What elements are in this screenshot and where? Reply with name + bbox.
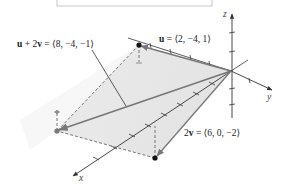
y-axis-negative	[231, 60, 248, 71]
vector-diagram: z y x u = ⟨2, −4, 1⟩ u + 2v = ⟨8, −4, −1…	[0, 0, 288, 185]
y-axis-label: y	[267, 93, 271, 103]
vector-u-value: = ⟨2, −4, 1⟩	[164, 34, 211, 44]
y-axis-tick	[249, 78, 250, 83]
point-2v	[152, 155, 157, 160]
point-u-plus-2v	[54, 128, 59, 133]
vector-sum-value: = ⟨8, −4, −1⟩	[42, 39, 94, 49]
x-axis-label: x	[79, 174, 83, 184]
diagram-svg	[0, 0, 288, 185]
vector-sum-plus: + 2	[22, 39, 37, 49]
z-axis-label: z	[223, 10, 227, 20]
y-axis	[231, 71, 272, 90]
vector-2v-value: = ⟨6, 0, −2⟩	[194, 128, 241, 138]
point-u	[136, 42, 141, 47]
vector-sum-label: u + 2v = ⟨8, −4, −1⟩	[17, 40, 94, 50]
top-frame	[57, 0, 212, 6]
vector-2v-label: 2v = ⟨6, 0, −2⟩	[184, 129, 240, 139]
vector-u-label: u = ⟨2, −4, 1⟩	[159, 35, 211, 45]
